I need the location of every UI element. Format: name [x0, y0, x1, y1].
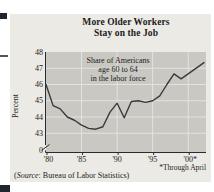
series-annotation: Share of Americans age 60 to 64 in the l… — [58, 56, 178, 83]
annotation-line2: age 60 to 64 — [58, 65, 178, 74]
y-tick-label: 0 — [20, 146, 43, 155]
y-tick-label: 48 — [20, 48, 43, 57]
footnote: *Through April — [120, 163, 206, 172]
source-note: (Source: Bureau of Labor Statistics) — [14, 171, 129, 180]
x-tick-label: '80 — [37, 155, 61, 164]
y-tick-label: 45 — [20, 96, 43, 105]
older-workers-chart-figure: More Older Workers Stay on the Job Share… — [0, 0, 214, 192]
annotation-line1: Share of Americans — [58, 56, 178, 65]
y-tick-label: 44 — [20, 113, 43, 122]
source-word: Source — [17, 171, 39, 180]
annotation-line3: in the labor force — [58, 74, 178, 83]
y-tick-label: 43 — [20, 129, 43, 138]
x-tick-label: '85 — [70, 155, 94, 164]
y-tick-label: 47 — [20, 64, 43, 73]
source-rest: : Bureau of Labor Statistics) — [39, 171, 130, 180]
y-tick-label: 46 — [20, 80, 43, 89]
